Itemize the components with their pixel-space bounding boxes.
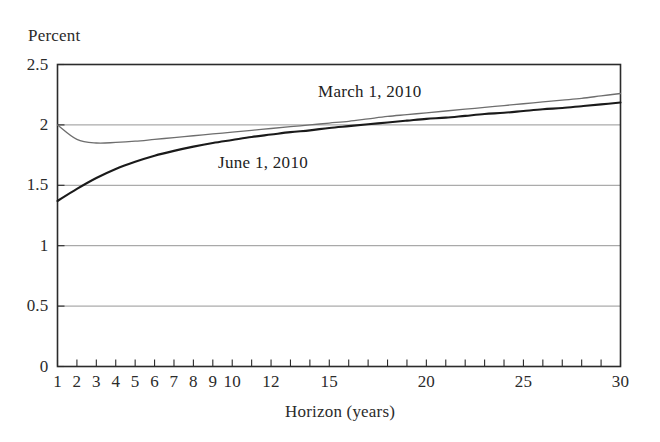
y-tick-label: 1 (40, 236, 49, 256)
x-tick-label: 3 (92, 372, 101, 392)
x-tick-label: 30 (612, 372, 629, 392)
series-label-june: June 1, 2010 (218, 153, 308, 173)
y-tick-label: 1.5 (27, 175, 49, 195)
x-tick-label: 1 (53, 372, 62, 392)
y-tick-label: 0 (40, 357, 49, 377)
x-tick-label: 2 (73, 372, 82, 392)
x-tick-label: 10 (224, 372, 241, 392)
y-tick-label: 0.5 (27, 296, 49, 316)
y-axis-label: Percent (28, 26, 80, 46)
x-tick-label: 6 (150, 372, 159, 392)
x-axis-label: Horizon (years) (285, 402, 395, 422)
series-label-march: March 1, 2010 (318, 82, 422, 102)
x-tick-label: 25 (515, 372, 532, 392)
series-line-june (58, 103, 621, 201)
x-tick-label: 12 (262, 372, 279, 392)
y-tick-label: 2 (40, 115, 49, 135)
x-tick-label: 4 (111, 372, 120, 392)
y-tick-label: 2.5 (27, 55, 49, 75)
x-tick-label: 5 (131, 372, 140, 392)
x-tick-label: 15 (321, 372, 338, 392)
x-tick-label: 20 (418, 372, 435, 392)
x-tick-label: 7 (170, 372, 179, 392)
x-tick-label: 9 (208, 372, 217, 392)
x-tick-label: 8 (189, 372, 198, 392)
chart-figure: Percent 00.511.522.5 1234567891012152025… (0, 0, 660, 442)
